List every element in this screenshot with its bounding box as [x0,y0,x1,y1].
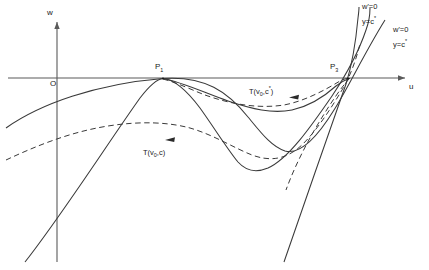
phase-plane-figure [0,0,429,270]
nullcline-2-label-line1: w'=0 [393,26,408,34]
trajectory-c-label: T(v0,c) [143,147,165,158]
nullcline-1-label-star: * [374,15,376,21]
p1-marker [162,77,164,79]
point-p3-label: P3 [330,63,338,73]
nullcline-2-label-line2: y=c* [393,39,407,48]
point-p1-label: P1 [155,63,163,73]
traj-star-end: ) [271,87,274,96]
dashed-trajectories-group [6,44,360,190]
origin-label: O [50,80,56,88]
traj-plain-base: T(v [143,148,154,157]
u-axis-arrowhead [398,75,405,80]
nullcline-2-label-star: * [405,38,407,44]
p1-label-subscript: 1 [160,67,163,73]
axes-group [8,22,405,262]
trajectory-c-star-tail [286,78,350,190]
p3-steep-ray [284,7,359,262]
trajectory-c-star-label: T(v0,c*) [249,86,273,97]
arrowhead-c-star [289,95,299,100]
arrowhead-c [165,137,175,142]
nullcline-1-label-line1: w'=0 [362,3,377,11]
traj-star-base: T(v [249,87,260,96]
trajectory-c-curve [6,44,360,160]
nullcline-1-label-base: y=c [362,17,374,26]
w-axis-arrowhead [54,22,59,29]
nullcline-wide-arc-curve [6,20,385,152]
w-axis-label: w [47,9,53,17]
p3-steep-ray-group [284,7,359,262]
p3-label-subscript: 3 [335,67,338,73]
u-axis-label: u [409,83,413,91]
nullcline-2-label-base: y=c [393,40,405,49]
traj-plain-end: ) [163,148,166,157]
nullcline-1-label-line2: y=c* [362,16,376,25]
p3-marker [347,77,349,79]
